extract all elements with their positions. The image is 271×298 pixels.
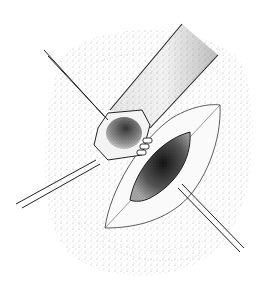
illustration-canvas bbox=[0, 0, 271, 298]
surgical-illustration bbox=[0, 0, 271, 298]
